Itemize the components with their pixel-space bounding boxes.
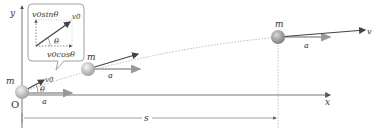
initial-velocity-label: v0	[45, 76, 54, 84]
mass-label-2: m	[87, 52, 96, 62]
inset-vector-label: v0	[72, 13, 81, 21]
inset-vertical-component: v0sinθ	[32, 10, 58, 19]
origin-label: O	[11, 99, 19, 110]
y-axis-label: y	[9, 8, 16, 18]
final-velocity-label: v	[367, 27, 372, 36]
ball-peak	[271, 30, 365, 44]
mass-label-3: m	[275, 19, 284, 29]
acceleration-label-2: a	[108, 71, 113, 80]
inset-angle-label: θ	[54, 37, 59, 46]
mass-label-1: m	[6, 76, 15, 86]
motion-diagram: y x O s m v0 θ a m a m a v	[0, 0, 380, 133]
x-axis-label: x	[325, 97, 330, 107]
distance-label: s	[144, 113, 149, 123]
inset-horizontal-component: v0cosθ	[47, 50, 75, 59]
acceleration-label-3: a	[304, 41, 309, 50]
distance-indicator	[22, 112, 276, 123]
acceleration-label-1: a	[42, 97, 47, 106]
angle-label: θ	[40, 85, 45, 94]
